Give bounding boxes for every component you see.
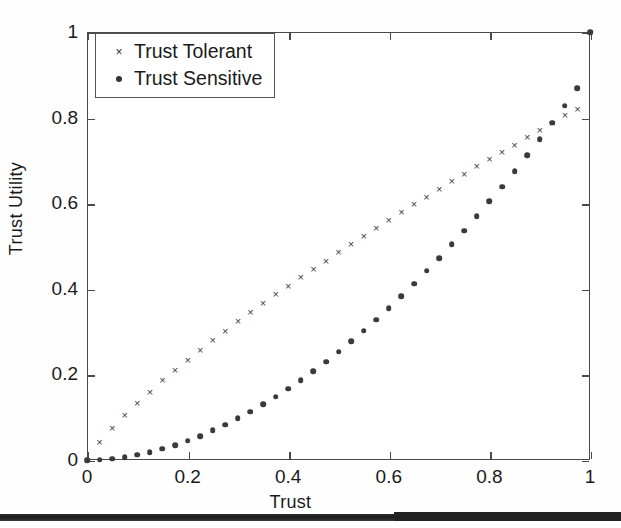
legend-entry-trust-sensitive: Trust Sensitive <box>104 65 262 92</box>
x-axis-tick <box>390 452 391 459</box>
x-axis-tick <box>390 33 391 40</box>
y-axis-tick-label: 0 <box>0 449 78 471</box>
y-axis-tick <box>88 119 95 120</box>
x-axis-tick <box>189 452 190 459</box>
x-axis-tick <box>289 33 290 40</box>
x-axis-tick <box>490 452 491 459</box>
x-axis-tick-label: 0.6 <box>376 466 402 488</box>
x-axis-tick-label: 0.8 <box>476 466 502 488</box>
scan-artifact-band-dark <box>394 512 621 521</box>
x-axis-tick-label: 0.2 <box>174 466 200 488</box>
legend-label-trust-tolerant: Trust Tolerant <box>134 40 252 63</box>
x-axis-tick <box>591 452 592 459</box>
y-axis-tick <box>582 461 589 462</box>
y-axis-tick <box>88 461 95 462</box>
x-axis-label-text: Trust <box>270 492 312 512</box>
y-axis-tick <box>582 119 589 120</box>
y-axis-tick <box>88 204 95 205</box>
x-axis-tick <box>490 33 491 40</box>
x-axis-tick-label: 0.4 <box>275 466 301 488</box>
y-axis-tick-label: 0.6 <box>0 192 78 214</box>
legend-entry-trust-tolerant: × Trust Tolerant <box>104 38 262 65</box>
y-axis-tick <box>582 204 589 205</box>
dot-marker-icon <box>104 76 134 82</box>
legend: × Trust Tolerant Trust Sensitive <box>95 33 275 98</box>
y-axis-tick-label: 1 <box>0 21 78 43</box>
x-axis-tick <box>88 452 89 459</box>
x-axis-tick-label: 0 <box>82 466 93 488</box>
y-axis-tick <box>88 375 95 376</box>
chart-figure: Trust Trust Utility × Trust Tolerant Tru… <box>0 0 621 528</box>
x-axis-label: Trust <box>0 492 621 513</box>
legend-label-trust-sensitive: Trust Sensitive <box>134 67 262 90</box>
y-axis-tick-label: 0.2 <box>0 363 78 385</box>
y-axis-tick-label: 0.4 <box>0 278 78 300</box>
y-axis-tick <box>582 375 589 376</box>
y-axis-tick <box>582 33 589 34</box>
x-axis-tick <box>591 33 592 40</box>
x-axis-tick <box>289 452 290 459</box>
y-axis-tick <box>582 290 589 291</box>
cross-marker-icon: × <box>104 45 134 59</box>
y-axis-tick <box>88 33 95 34</box>
x-axis-tick-label: 1 <box>585 466 596 488</box>
y-axis-tick-label: 0.8 <box>0 107 78 129</box>
y-axis-tick <box>88 290 95 291</box>
